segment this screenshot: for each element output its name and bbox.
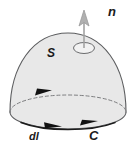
- figure-container: n S dl C: [0, 0, 136, 152]
- dome-surface-fill: [10, 33, 126, 129]
- label-line-element-dl: dl: [29, 131, 39, 142]
- label-boundary-curve-C: C: [89, 129, 98, 142]
- surface-diagram-svg: [0, 0, 136, 152]
- label-surface-S: S: [47, 47, 55, 59]
- label-normal-vector-n: n: [108, 5, 116, 18]
